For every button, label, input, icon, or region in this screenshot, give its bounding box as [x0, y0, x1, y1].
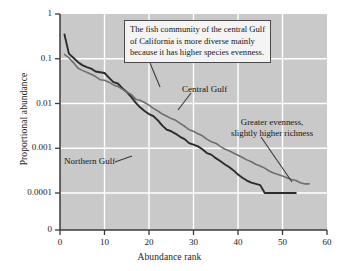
x-tick-label: 20 — [129, 237, 169, 247]
x-tick-label: 50 — [263, 237, 303, 247]
x-tick-label: 30 — [174, 237, 214, 247]
y-tick-label: 0.001 — [0, 142, 52, 152]
x-tick-label: 60 — [307, 237, 339, 247]
y-tick-label: 0.01 — [0, 98, 52, 108]
y-tick-label: 0 — [0, 224, 52, 234]
series-label-central-gulf: Central Gulf — [182, 84, 227, 94]
y-axis-title: Proportional abundance — [19, 39, 29, 199]
note-line-2: slightly higher richness — [231, 128, 313, 139]
y-tick-label: 0.0001 — [0, 187, 52, 197]
x-axis-title: Abundance rank — [0, 252, 339, 262]
annotation-note-right: Greater evenness, slightly higher richne… — [231, 117, 313, 140]
callout-line-2: of California is more diverse mainly — [130, 36, 265, 48]
callout-line-3: because it has higher species evenness. — [130, 47, 265, 59]
chart-figure: The fish community of the central Gulf o… — [0, 0, 339, 271]
x-tick-label: 10 — [85, 237, 125, 247]
y-tick-label: 1 — [0, 8, 52, 18]
note-line-1: Greater evenness, — [231, 117, 313, 128]
series-label-northern-gulf: Northern Gulf — [64, 156, 115, 166]
callout-line-1: The fish community of the central Gulf — [130, 24, 265, 36]
x-tick-label: 40 — [218, 237, 258, 247]
x-tick-label: 0 — [40, 237, 80, 247]
y-tick-label: 0.1 — [0, 53, 52, 63]
annotation-callout: The fish community of the central Gulf o… — [124, 20, 271, 63]
